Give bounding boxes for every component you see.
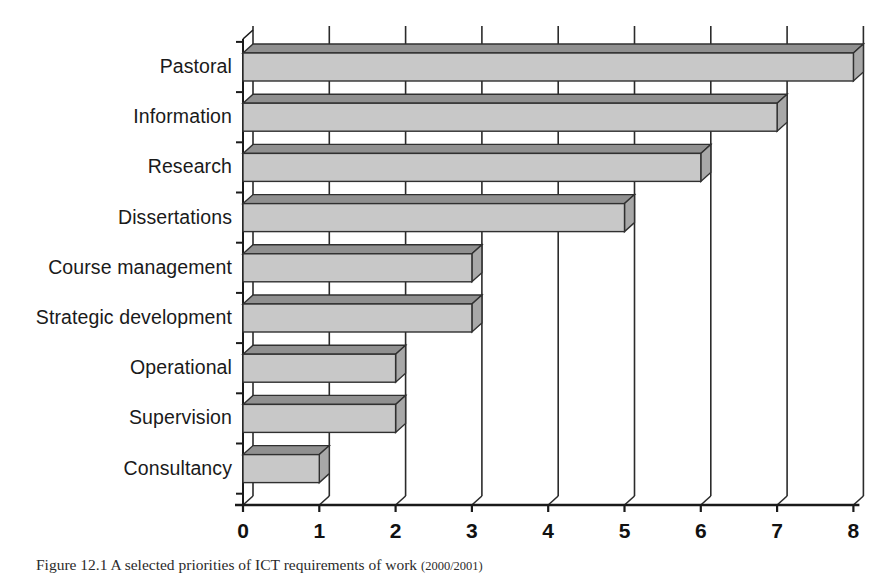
bar-dissertations	[243, 195, 635, 232]
category-label-dissertations: Dissertations	[118, 208, 232, 228]
bar-pastoral	[243, 44, 863, 81]
figure-caption-suffix: (2000/2001)	[421, 559, 483, 573]
figure-container: PastoralInformationResearchDissertations…	[0, 0, 890, 574]
figure-caption-text: Figure 12.1 A selected priorities of ICT…	[36, 556, 417, 573]
bar-course-management	[243, 245, 482, 282]
bar-strategic-development	[243, 295, 482, 332]
bar-consultancy	[243, 446, 329, 483]
bar-research	[243, 144, 711, 181]
category-label-research: Research	[148, 157, 232, 177]
category-label-operational: Operational	[130, 358, 232, 378]
x-tick-label-4: 4	[528, 520, 568, 541]
figure-caption: Figure 12.1 A selected priorities of ICT…	[36, 556, 866, 574]
category-label-information: Information	[133, 107, 232, 127]
x-tick-label-8: 8	[833, 520, 873, 541]
category-label-pastoral: Pastoral	[160, 57, 232, 77]
x-tick-label-1: 1	[299, 520, 339, 541]
category-label-supervision: Supervision	[129, 408, 232, 428]
category-label-strategic-development: Strategic development	[36, 308, 232, 328]
x-tick-label-6: 6	[681, 520, 721, 541]
x-tick-label-7: 7	[757, 520, 797, 541]
x-tick-label-5: 5	[605, 520, 645, 541]
category-label-course-management: Course management	[48, 258, 232, 278]
bar-operational	[243, 345, 406, 382]
bar-supervision	[243, 395, 406, 432]
bar-chart-plot	[0, 0, 890, 574]
bar-information	[243, 94, 787, 131]
category-label-consultancy: Consultancy	[124, 459, 232, 479]
x-tick-label-0: 0	[223, 520, 263, 541]
x-tick-label-2: 2	[376, 520, 416, 541]
bars-group	[243, 44, 863, 483]
x-tick-label-3: 3	[452, 520, 492, 541]
